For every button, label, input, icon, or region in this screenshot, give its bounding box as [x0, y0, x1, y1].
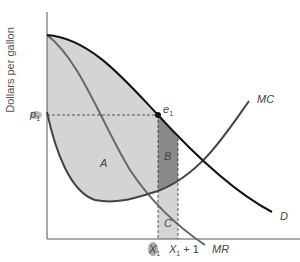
equilibrium-point — [155, 112, 161, 118]
diagram-canvas — [0, 0, 300, 262]
mc-label: MC — [257, 93, 274, 105]
point-label: e1 — [163, 103, 173, 117]
x1plus-label: X1 + 1 — [169, 243, 199, 257]
y-axis-label: Dollars per gallon — [4, 20, 20, 120]
monopoly-diagram: Dollars per gallon p1 e1 MC D MR A B C X… — [0, 0, 300, 262]
x1-label: X1 — [149, 243, 160, 257]
demand-label: D — [280, 210, 288, 222]
area-c-label: C — [164, 217, 172, 229]
mr-label: MR — [212, 243, 229, 255]
area-b-label: B — [164, 150, 171, 162]
price-label: p1 — [30, 108, 40, 122]
area-a-label: A — [100, 157, 107, 169]
